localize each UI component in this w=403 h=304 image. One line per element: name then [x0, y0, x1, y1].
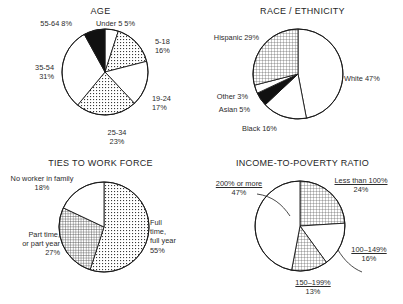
panel-race-ethnicity: RACE / ETHNICITY White 47%Black 16%Asian…: [202, 0, 403, 152]
income-label-150-199: 150–199% 13%: [280, 278, 346, 296]
ties-label-no-worker: No worker in family 18%: [0, 174, 86, 192]
income-label-less-than-100: Less than 100% 24%: [320, 176, 402, 194]
four-pie-chart-figure: AGE Under 5 5%5-18 16%19-24 17%25-34 23%…: [0, 0, 403, 304]
age-label-55-64: 55-64 8%: [10, 19, 72, 28]
income-label-100-149: 100–149% 16%: [337, 245, 401, 263]
age-label-under-5: Under 5 5%: [96, 19, 176, 28]
age-label-25-34: 25-34 23%: [92, 128, 142, 146]
race-label-hispanic: Hispanic 29%: [197, 33, 259, 42]
panel-age: AGE Under 5 5%5-18 16%19-24 17%25-34 23%…: [0, 0, 201, 152]
race-label-asian: Asian 5%: [198, 105, 250, 114]
ties-label-full-time: Full time, full year 55%: [150, 218, 198, 255]
age-label-19-24: 19-24 17%: [152, 94, 200, 112]
age-label-35-54: 35-54 31%: [2, 63, 54, 81]
panel-ties-to-work-force: TIES TO WORK FORCE Full time, full year …: [0, 152, 201, 304]
panel-income-to-poverty-ratio: INCOME-TO-POVERTY RATIO Less than 100% 2…: [202, 152, 403, 304]
age-label-5-18: 5-18 16%: [155, 37, 199, 55]
race-label-black: Black 16%: [242, 124, 302, 133]
ties-label-part-time: Part time, or part year 27%: [0, 230, 60, 258]
race-label-white: White 47%: [344, 74, 403, 83]
race-label-other: Other 3%: [198, 92, 248, 101]
pie-slice: White 47%: [298, 29, 343, 118]
income-label-200-or-more: 200% or more 47%: [200, 179, 278, 197]
